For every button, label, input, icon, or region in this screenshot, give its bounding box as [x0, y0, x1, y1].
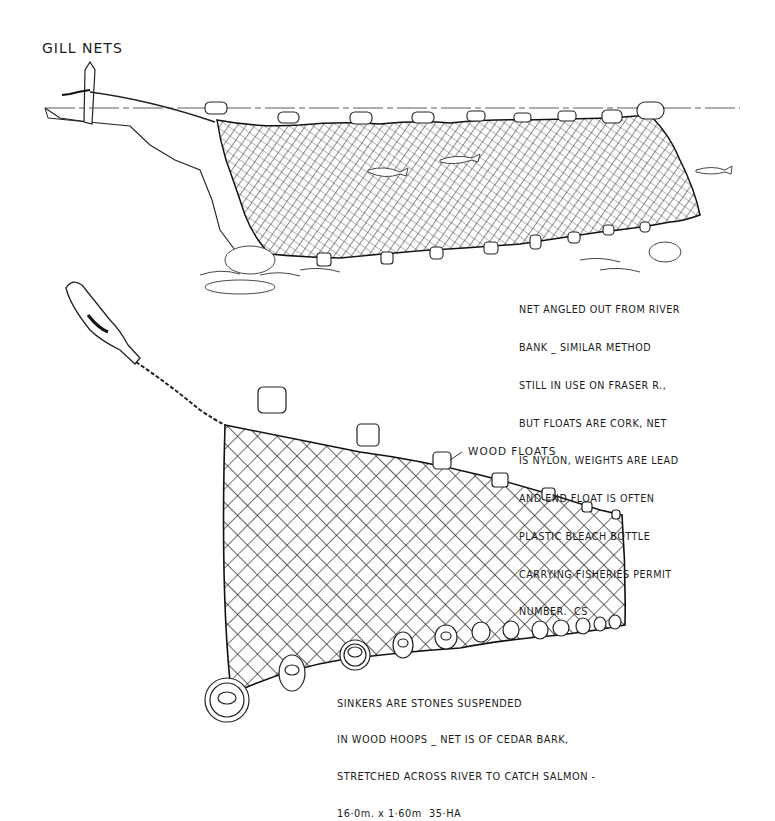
bottle-float-icon: [66, 282, 140, 364]
net-dimensions: 16·0m. x 1·60m 35·HA: [337, 808, 596, 820]
note-line: NUMBER. CS: [519, 606, 680, 619]
note-line: CARRYING FISHERIES PERMIT: [519, 569, 680, 582]
page-title: GILL NETS: [42, 40, 123, 56]
note-line: SINKERS ARE STONES SUSPENDED: [337, 698, 596, 710]
upper-net-scene: [45, 62, 740, 294]
wood-floats-label: WOOD FLOATS: [468, 445, 556, 457]
note-line: IS NYLON, WEIGHTS ARE LEAD: [519, 455, 680, 468]
note-line: NET ANGLED OUT FROM RIVER: [519, 304, 680, 317]
note-line: PLASTIC BLEACH BOTTLE: [519, 531, 680, 544]
river-bank: [45, 108, 240, 258]
lower-net-note: SINKERS ARE STONES SUSPENDED IN WOOD HOO…: [337, 673, 596, 821]
note-line: STRETCHED ACROSS RIVER TO CATCH SALMON -: [337, 771, 596, 783]
upper-net: [217, 115, 700, 258]
note-line: BUT FLOATS ARE CORK, NET: [519, 418, 680, 431]
note-line: AND END FLOAT IS OFTEN: [519, 493, 680, 506]
note-line: STILL IN USE ON FRASER R.,: [519, 380, 680, 393]
note-line: IN WOOD HOOPS _ NET IS OF CEDAR BARK,: [337, 734, 596, 746]
note-line: BANK _ SIMILAR METHOD: [519, 342, 680, 355]
